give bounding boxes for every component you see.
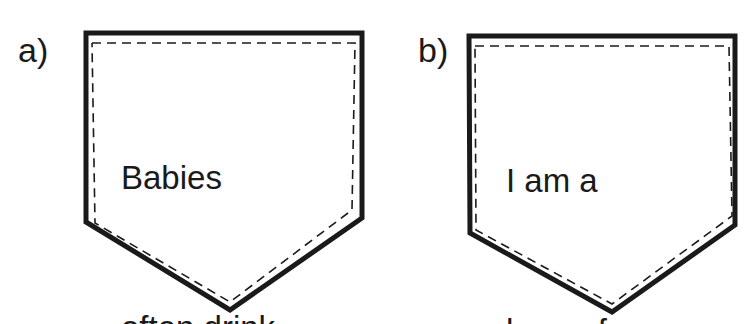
pocket-a-label: a): [18, 33, 48, 67]
pocket-b-line-1: I am a: [506, 156, 680, 206]
pocket-a-line-1: Babies: [121, 153, 295, 203]
pocket-b-line-2: home for: [506, 306, 680, 324]
pocket-a-text: Babies often drink from me. I am a ___ .: [121, 53, 295, 324]
pocket-b-label: b): [418, 33, 448, 67]
pocket-b-text: I am a home for a pet. I am a ___ .: [506, 56, 680, 324]
pocket-a-line-2: often drink: [121, 303, 295, 324]
